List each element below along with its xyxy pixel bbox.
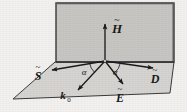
vector-H-label: H <box>111 21 123 36</box>
vector-E-label: E <box>115 91 124 105</box>
vector-k0-label: k <box>60 89 66 101</box>
physics-vector-figure: ~ H ~ S k 0 ~ E ~ D α α <box>0 0 187 112</box>
vector-D-label: D <box>150 72 160 86</box>
figure-canvas: ~ H ~ S k 0 ~ E ~ D α α <box>0 0 187 112</box>
angle-label-alpha-right: α <box>113 67 118 77</box>
vector-k0-subscript: 0 <box>67 96 71 104</box>
vector-S-label: S <box>35 69 42 83</box>
origin-point <box>104 60 107 63</box>
angle-label-alpha-left: α <box>82 67 87 77</box>
